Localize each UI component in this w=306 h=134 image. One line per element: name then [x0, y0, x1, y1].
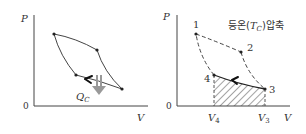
right-pv-diagram: P V 0 등온(TC)압축 1 2 3 4 V4 V3	[162, 11, 293, 125]
left-point	[52, 32, 55, 35]
left-pv-diagram: P V 0 QC	[20, 13, 148, 123]
work-area-hatched	[214, 75, 265, 106]
process-title: 등온(TC)압축	[228, 19, 284, 33]
state-label-4: 4	[204, 73, 210, 84]
heat-label: QC	[76, 91, 90, 104]
left-cycle-top	[54, 34, 97, 50]
right-curve-1-2	[196, 34, 241, 52]
left-cycle-left	[54, 34, 76, 75]
state-label-2: 2	[247, 42, 253, 53]
pv-diagrams: P V 0 QC P V 0 등온(TC)압축	[0, 0, 306, 134]
left-point	[95, 48, 98, 51]
heat-out-arrow-icon	[92, 75, 106, 95]
state-point-4	[212, 73, 215, 76]
right-x-axis-label: V	[284, 112, 293, 123]
state-point-2	[239, 50, 242, 53]
v3-tick-label: V3	[258, 112, 270, 125]
state-label-3: 3	[269, 84, 275, 95]
left-x-axis-label: V	[137, 112, 146, 123]
left-y-axis-label: P	[20, 13, 28, 24]
state-point-3	[263, 87, 266, 90]
right-curve-2-3	[241, 52, 265, 89]
left-point	[74, 73, 77, 76]
left-point	[120, 87, 123, 90]
right-y-axis-label: P	[162, 11, 170, 22]
state-point-1	[194, 32, 197, 35]
state-label-1: 1	[193, 19, 199, 30]
left-origin-label: 0	[23, 101, 29, 111]
v4-tick-label: V4	[208, 112, 220, 125]
right-origin-label: 0	[166, 101, 172, 111]
